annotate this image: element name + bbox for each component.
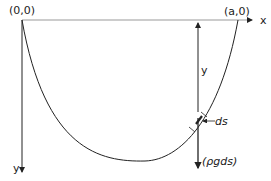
diagram-canvas (0, 0, 271, 181)
origin-label: (0,0) (9, 5, 35, 16)
right-end-label: (a,0) (224, 6, 250, 17)
ds-tick-lower (189, 127, 195, 132)
ds-label: ds (215, 116, 228, 127)
force-label: (ρgds) (202, 156, 237, 167)
hanging-curve (22, 20, 238, 161)
y-axis-label: y (13, 163, 20, 174)
x-axis-label: x (260, 15, 267, 26)
depth-label: y (201, 65, 208, 76)
